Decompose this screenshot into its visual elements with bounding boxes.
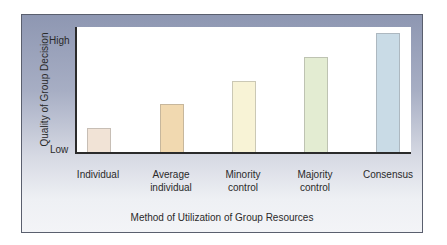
x-category-consensus: Consensus — [343, 168, 433, 181]
bar-majority-control — [304, 57, 328, 152]
y-axis-label: Quality of Group Decision — [39, 30, 50, 150]
bar-individual — [87, 128, 111, 152]
y-tick-high: High — [49, 35, 70, 46]
x-axis-label: Method of Utilization of Group Resources — [21, 212, 423, 223]
bar-consensus — [376, 33, 400, 152]
bar-minority-control — [232, 81, 256, 152]
bar-average-individual — [160, 104, 184, 152]
x-category-line: Consensus — [343, 168, 433, 181]
y-tick-low: Low — [50, 144, 68, 155]
plot-area — [75, 27, 411, 154]
x-category-line: control — [270, 181, 360, 194]
